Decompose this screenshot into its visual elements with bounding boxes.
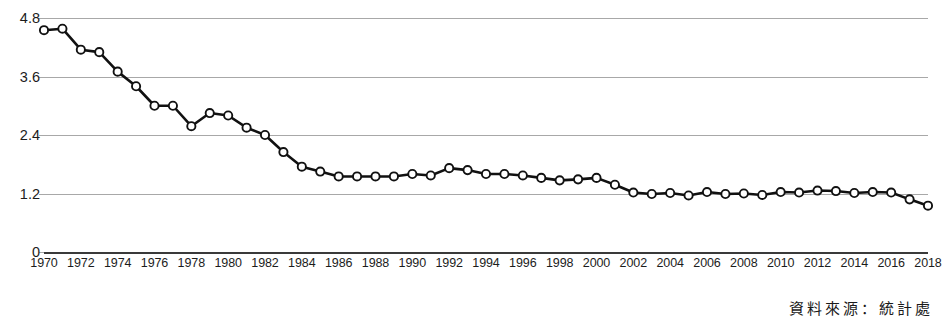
y-axis-label-2.4: 2.4 [4,127,40,143]
x-axis-label-2006: 2006 [693,256,720,270]
data-point-1973 [95,48,103,56]
data-point-1974 [114,68,122,76]
data-point-1981 [242,124,250,132]
data-point-2011 [795,188,803,196]
data-point-1997 [537,174,545,182]
x-axis-label-1986: 1986 [325,256,352,270]
plot-area: 01.22.43.64.8 [44,18,928,252]
data-point-1984 [298,163,306,171]
data-point-1990 [408,170,416,178]
data-point-2017 [905,195,913,203]
data-point-1972 [77,46,85,54]
x-axis-label-1994: 1994 [472,256,499,270]
data-point-2016 [887,188,895,196]
x-axis-label-2002: 2002 [620,256,647,270]
data-point-2010 [777,188,785,196]
data-point-2007 [721,190,729,198]
data-point-1988 [371,172,379,180]
data-point-2006 [703,188,711,196]
data-point-2014 [850,189,858,197]
data-point-1993 [463,166,471,174]
data-point-2008 [740,189,748,197]
x-axis-label-1976: 1976 [141,256,168,270]
gridline-0 [44,252,928,254]
data-point-2003 [648,190,656,198]
data-point-1986 [335,172,343,180]
x-axis-label-1982: 1982 [251,256,278,270]
data-point-2013 [832,187,840,195]
data-point-1989 [390,172,398,180]
x-axis-label-1980: 1980 [214,256,241,270]
x-axis-label-1992: 1992 [435,256,462,270]
data-point-2004 [666,189,674,197]
data-point-2000 [592,174,600,182]
x-axis-label-1998: 1998 [546,256,573,270]
data-point-1977 [169,102,177,110]
data-point-1985 [316,167,324,175]
x-axis-labels: 1970197219741976197819801982198419861988… [44,256,928,278]
series-line [44,29,928,206]
data-point-1998 [556,176,564,184]
data-point-2012 [813,186,821,194]
data-point-1976 [150,102,158,110]
x-axis-label-2008: 2008 [730,256,757,270]
data-point-1994 [482,170,490,178]
data-point-1987 [353,172,361,180]
data-point-2002 [629,188,637,196]
y-axis-label-1.2: 1.2 [4,186,40,202]
x-axis-label-2004: 2004 [656,256,683,270]
data-point-1971 [58,25,66,33]
x-axis-label-1974: 1974 [104,256,131,270]
data-point-1970 [40,26,48,34]
line-series-svg [44,18,928,252]
x-axis-label-2010: 2010 [767,256,794,270]
data-point-1991 [427,171,435,179]
data-point-1980 [224,111,232,119]
x-axis-label-1972: 1972 [67,256,94,270]
x-axis-label-2016: 2016 [877,256,904,270]
data-point-1982 [261,131,269,139]
x-axis-label-1984: 1984 [288,256,315,270]
data-point-1983 [279,148,287,156]
series-marker-group [40,25,932,210]
data-point-1975 [132,82,140,90]
data-point-2009 [758,191,766,199]
x-axis-label-1978: 1978 [178,256,205,270]
x-axis-label-1988: 1988 [362,256,389,270]
data-point-1979 [206,109,214,117]
data-point-2005 [684,191,692,199]
source-note: 資料來源：統計處 [789,297,933,318]
x-axis-label-2012: 2012 [804,256,831,270]
x-axis-label-2000: 2000 [583,256,610,270]
data-point-1995 [500,170,508,178]
x-axis-label-2014: 2014 [841,256,868,270]
y-axis-label-3.6: 3.6 [4,69,40,85]
data-point-1978 [187,122,195,130]
data-point-1992 [445,164,453,172]
x-axis-label-1990: 1990 [399,256,426,270]
x-axis-label-1996: 1996 [509,256,536,270]
y-axis-label-4.8: 4.8 [4,10,40,26]
data-point-2001 [611,181,619,189]
x-axis-label-2018: 2018 [914,256,941,270]
data-point-1996 [519,171,527,179]
data-point-2018 [924,202,932,210]
data-point-2015 [869,188,877,196]
x-axis-label-1970: 1970 [30,256,57,270]
data-point-1999 [574,175,582,183]
